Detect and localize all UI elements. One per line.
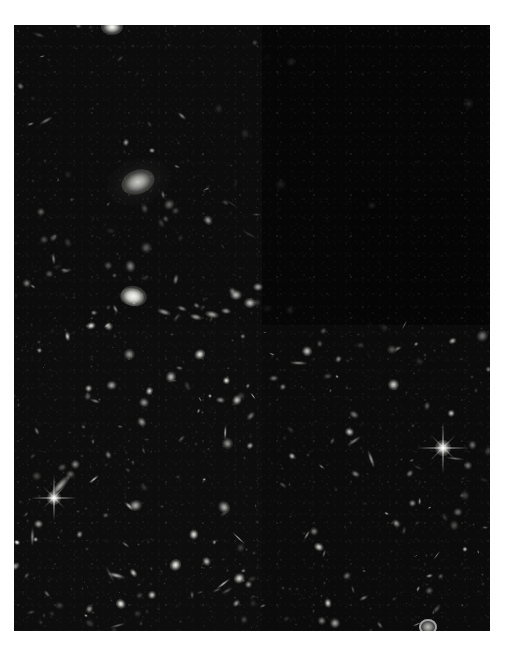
figure-caption-strip: HUBBLE DEEP FIELD — [0, 0, 505, 9]
figure-caption: HUBBLE DEEP FIELD — [0, 0, 505, 2]
deep-field-figure: HUBBLE DEEP FIELD — [0, 0, 505, 647]
deep-field-image — [14, 25, 490, 631]
detector-noise-layer-fine — [14, 25, 490, 631]
